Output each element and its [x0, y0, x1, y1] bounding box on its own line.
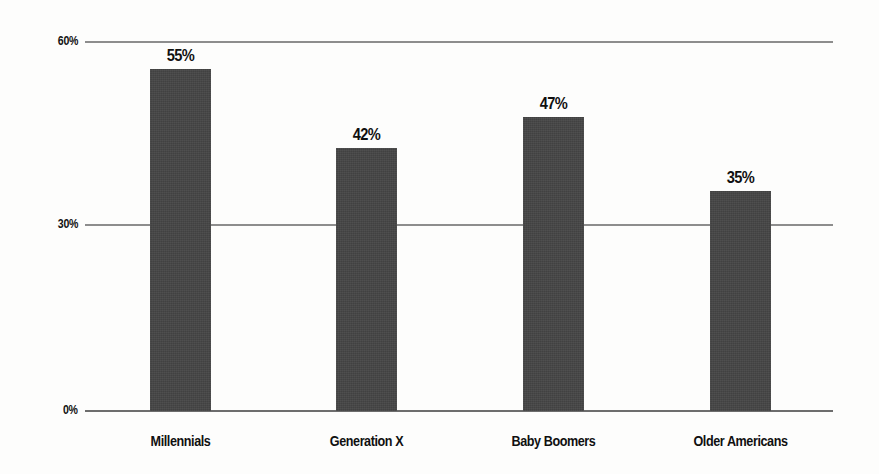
gridline-60 [85, 41, 833, 43]
y-tick-label-30: 30% [58, 217, 78, 231]
category-label-older-americans: Older Americans [690, 432, 792, 449]
category-label-generation-x: Generation X [316, 432, 418, 449]
bar-value-older-americans: 35% [706, 168, 776, 188]
y-tick-label-60: 60% [58, 34, 78, 48]
y-tick-label-0: 0% [63, 403, 78, 417]
bar-generation-x [336, 148, 397, 411]
bar-chart-figure: 60% 30% 0% 55% Millennials 42% Generatio… [0, 0, 879, 474]
bar-value-generation-x: 42% [332, 125, 402, 145]
bar-value-millennials: 55% [146, 46, 216, 66]
category-label-baby-boomers: Baby Boomers [503, 432, 605, 449]
bar-older-americans [710, 191, 771, 411]
bar-value-baby-boomers: 47% [519, 94, 589, 114]
bar-baby-boomers [523, 117, 584, 411]
category-label-millennials: Millennials [130, 432, 232, 449]
bar-millennials [150, 69, 211, 411]
